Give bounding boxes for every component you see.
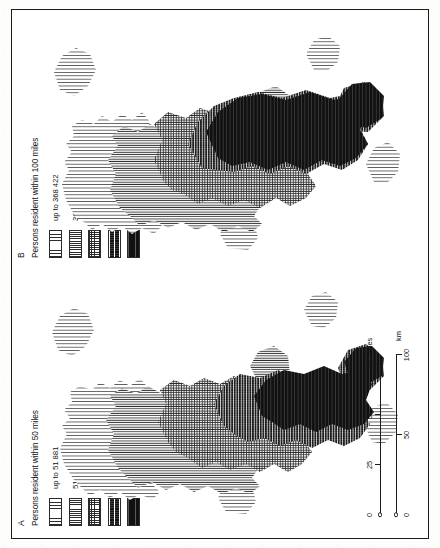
legend-b-label-2: 368 422 - 2 441 531: [71, 153, 80, 221]
legend-a-title: Persons resident within 50 miles: [30, 340, 40, 526]
panel-a-letter: A: [16, 520, 26, 526]
scale-miles-label-75: 75: [365, 361, 374, 369]
page-background: A Persons resident within 50 miles up to…: [0, 0, 440, 548]
scale-km-line: [396, 355, 397, 515]
legend-b-item-3: 2 441 531 - 4 512 921: [88, 72, 101, 258]
scale-miles-tick-25: [375, 464, 381, 465]
scale-miles-unit: miles: [365, 338, 374, 355]
map-b-class-5-region: [206, 82, 384, 170]
scale-miles-label-50: 50: [365, 411, 374, 419]
map-a-class-3-region: [158, 376, 312, 472]
panel-b-letter: B: [16, 252, 26, 258]
rotated-figure-canvas: A Persons resident within 50 miles up to…: [12, 10, 428, 538]
legend-a-item-1: up to 51 881: [49, 340, 62, 526]
legend-swatch-class-5-icon: [127, 230, 140, 258]
scale-km-label-0: 0: [402, 513, 411, 517]
scale-miles-tick-50: [375, 414, 381, 415]
legend-panel-b: Persons resident within 100 miles up to …: [30, 72, 147, 258]
map-b-class-4-region: [188, 82, 384, 174]
legend-swatch-class-2-icon: [69, 498, 82, 526]
legend-a-item-5: 2 179 647 and over: [127, 340, 140, 526]
legend-swatch-class-1-icon: [49, 230, 62, 258]
legend-a-item-4: 639 709 - 2 179 647: [108, 340, 121, 526]
map-b-class-3-region: [154, 106, 316, 208]
legend-b-item-2: 368 422 - 2 441 531: [69, 72, 82, 258]
legend-b-item-1: up to 368 422: [49, 72, 62, 258]
legend-swatch-class-1-icon: [49, 498, 62, 526]
legend-swatch-class-3-icon: [88, 230, 101, 258]
legend-panel-a: Persons resident within 50 miles up to 5…: [30, 340, 147, 526]
legend-b-item-5: 4 993 692 and over: [127, 72, 140, 258]
legend-a-label-5: 2 179 647 and over: [129, 424, 138, 489]
map-a-class-4-region: [214, 344, 384, 448]
scale-miles-tick-75: [375, 364, 381, 365]
scale-miles-line: [380, 365, 381, 515]
legend-a-item-3: 185 215 - 639 709: [88, 340, 101, 526]
legend-a-label-1: up to 51 881: [51, 447, 60, 489]
legend-b-label-5: 4 993 692 and over: [129, 156, 138, 221]
legend-b-label-3: 2 441 531 - 4 512 921: [90, 147, 99, 221]
scale-miles-label-0: 0: [365, 513, 374, 517]
map-panel-a: A Persons resident within 50 miles up to…: [12, 270, 428, 538]
scale-km-origin-icon: [394, 513, 399, 518]
legend-b-label-4: 4 512 921 - 4 993 692: [110, 147, 119, 221]
legend-a-label-2: 51 881 - 185 215: [71, 432, 80, 489]
legend-b-title: Persons resident within 100 miles: [30, 72, 40, 258]
scale-km-label-100: 100: [402, 349, 411, 361]
scale-km-unit: km: [394, 331, 403, 341]
legend-swatch-class-4-icon: [108, 498, 121, 526]
legend-a-label-3: 185 215 - 639 709: [90, 427, 99, 489]
scale-bar: 0 25 50 75 miles 0 50 100 km: [366, 345, 412, 521]
legend-a-item-2: 51 881 - 185 215: [69, 340, 82, 526]
scale-miles-label-25: 25: [365, 461, 374, 469]
legend-a-label-4: 639 709 - 2 179 647: [110, 421, 119, 489]
legend-b-item-4: 4 512 921 - 4 993 692: [108, 72, 121, 258]
legend-swatch-class-5-icon: [127, 498, 140, 526]
scale-km-label-50: 50: [402, 431, 411, 439]
figure-frame: A Persons resident within 50 miles up to…: [11, 9, 429, 539]
legend-swatch-class-3-icon: [88, 498, 101, 526]
legend-b-label-1: up to 368 422: [51, 175, 60, 221]
scale-miles-origin-icon: [378, 513, 383, 518]
map-panel-b: B Persons resident within 100 miles up t…: [12, 10, 428, 270]
legend-swatch-class-4-icon: [108, 230, 121, 258]
legend-swatch-class-2-icon: [69, 230, 82, 258]
